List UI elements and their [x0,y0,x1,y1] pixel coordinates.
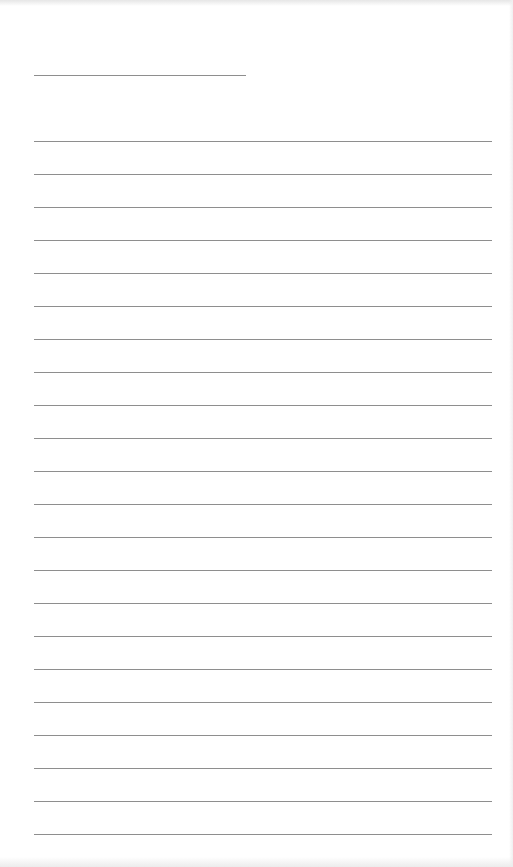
ruled-line [34,768,492,769]
ruled-line [34,834,492,835]
ruled-line [34,669,492,670]
ruled-line [34,240,492,241]
ruled-line [34,372,492,373]
ruled-line [34,174,492,175]
scan-edge-bottom [0,857,513,867]
ruled-line [34,537,492,538]
ruled-line [34,339,492,340]
ruled-line [34,141,492,142]
ruled-line [34,735,492,736]
scan-edge-top [0,0,513,6]
ruled-line [34,801,492,802]
header-line [34,75,246,76]
scan-edge-right [509,0,513,867]
ruled-line [34,636,492,637]
ruled-line [34,471,492,472]
ruled-line [34,702,492,703]
ruled-line [34,504,492,505]
ruled-line [34,306,492,307]
ruled-line [34,438,492,439]
ruled-line [34,405,492,406]
ruled-line [34,570,492,571]
ruled-line [34,273,492,274]
ruled-line [34,207,492,208]
ruled-line [34,603,492,604]
